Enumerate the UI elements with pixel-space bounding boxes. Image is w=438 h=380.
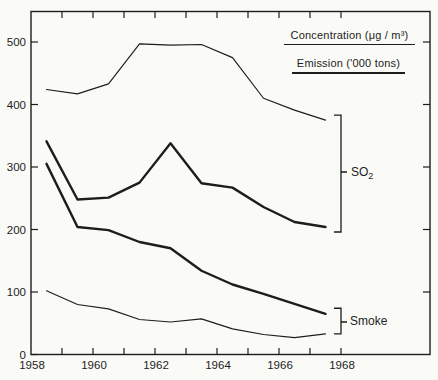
x-axis-tick-label: 1966 [267, 359, 293, 371]
so2-bracket [334, 115, 347, 232]
x-axis-tick-label: 1962 [143, 359, 169, 371]
so2-label-subscript: 2 [368, 171, 373, 181]
y-axis-tick-label: 400 [7, 99, 26, 111]
legend-concentration-label: Concentration (μg / m³) [284, 29, 415, 45]
y-axis-tick-label: 300 [7, 161, 26, 173]
x-axis-tick-label: 1968 [329, 359, 355, 371]
smoke-bracket-label: Smoke [350, 314, 387, 328]
so2-emission-line [47, 141, 326, 227]
so2-bracket-label: SO2 [351, 165, 373, 179]
y-axis-tick-label: 100 [7, 286, 26, 298]
x-axis-tick-label: 1960 [81, 359, 107, 371]
air-pollution-chart: 0100200300400500195819601962196419661968… [0, 0, 438, 380]
so2-label-base: SO [351, 165, 368, 179]
y-axis-tick-label: 500 [7, 36, 26, 48]
x-axis-tick-label: 1958 [19, 359, 45, 371]
smoke-emission-line [47, 164, 326, 314]
smoke-bracket [334, 308, 347, 334]
legend-emission-label: Emission ('000 tons) [292, 57, 405, 74]
smoke-concentration-line [47, 291, 326, 338]
so2-concentration-line [47, 44, 326, 120]
y-axis-tick-label: 200 [7, 224, 26, 236]
x-axis-tick-label: 1964 [205, 359, 231, 371]
